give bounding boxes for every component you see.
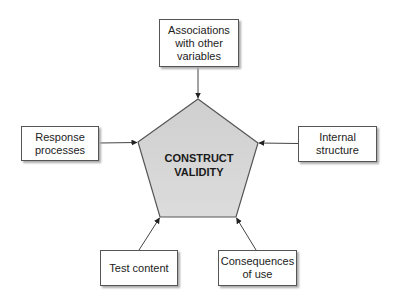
arrow-left [99, 143, 137, 144]
arrow-bottom-right [237, 218, 257, 250]
node-internal-structure: Internal structure [298, 126, 377, 162]
node-test-content: Test content [100, 250, 178, 286]
node-label: Response processes [35, 131, 85, 157]
arrow-right [259, 143, 298, 144]
node-label: Test content [109, 262, 168, 275]
node-label: Internal structure [316, 131, 359, 157]
node-associations-with-other-variables: Associations with other variables [159, 19, 239, 67]
node-consequences-of-use: Consequences of use [218, 250, 297, 286]
node-label: Consequences of use [221, 255, 294, 281]
node-response-processes: Response processes [21, 126, 99, 161]
node-label: Associations with other variables [168, 24, 230, 63]
arrow-bottom-left [139, 218, 160, 250]
construct-validity-label: CONSTRUCT VALIDITY [158, 151, 240, 179]
